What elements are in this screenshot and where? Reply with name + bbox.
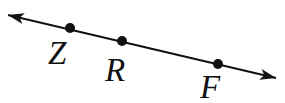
line-through-points-diagram: ZRF bbox=[0, 0, 285, 103]
geometry-figure: ZRF bbox=[0, 0, 285, 103]
point-label-f: F bbox=[199, 69, 221, 103]
point-label-z: Z bbox=[48, 35, 67, 71]
point-dot-r bbox=[117, 36, 127, 46]
point-dot-f bbox=[213, 59, 223, 69]
point-dot-z bbox=[65, 23, 75, 33]
point-label-r: R bbox=[104, 52, 125, 88]
